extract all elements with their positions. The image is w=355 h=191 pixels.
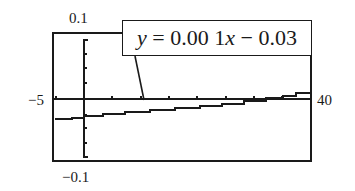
- plotted-line: [55, 93, 311, 119]
- ymax-label: 0.1: [69, 11, 88, 26]
- annotation-leader-line: [135, 56, 144, 100]
- equation-annotation: y = 0.00 1x − 0.03: [122, 20, 312, 56]
- equation-suffix: − 0.03: [235, 25, 297, 50]
- ymin-label: −0.1: [62, 170, 89, 185]
- xmax-label: 40: [317, 93, 332, 108]
- equation-x-var: x: [225, 25, 235, 50]
- equation-y-var: y: [137, 25, 147, 50]
- xmin-label: −5: [28, 93, 44, 108]
- equation-body: = 0.00 1: [147, 25, 225, 50]
